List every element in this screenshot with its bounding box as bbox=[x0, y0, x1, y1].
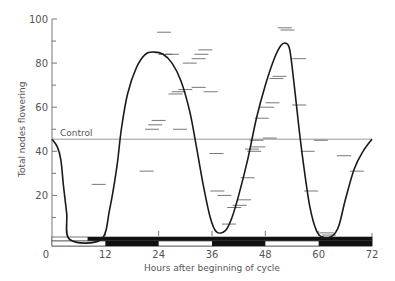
axes bbox=[52, 19, 372, 246]
y-tick-label: 60 bbox=[35, 102, 48, 113]
control-group: Control bbox=[52, 128, 372, 139]
x-tick-label: 0 bbox=[43, 249, 49, 260]
chart: Control 0122436486072 20406080100 Hours … bbox=[0, 0, 395, 281]
y-tick-label: 100 bbox=[29, 14, 48, 25]
y-tick-label: 40 bbox=[35, 146, 48, 157]
x-tick-label: 48 bbox=[259, 249, 272, 260]
fitted-curve bbox=[52, 43, 372, 243]
y-tick-labels: 20406080100 bbox=[29, 14, 48, 201]
y-tick-label: 20 bbox=[35, 190, 48, 201]
observation-markers bbox=[92, 28, 364, 235]
y-axis-label: Total nodes flowering bbox=[17, 81, 27, 178]
lower-bar-dark-segment bbox=[212, 241, 265, 246]
x-tick-label: 72 bbox=[366, 249, 379, 260]
control-label: Control bbox=[60, 128, 93, 138]
lower-bar-dark-segment bbox=[319, 241, 372, 246]
y-tick-label: 80 bbox=[35, 58, 48, 69]
x-tick-labels: 0122436486072 bbox=[43, 249, 379, 260]
x-axis-label: Hours after beginning of cycle bbox=[144, 263, 280, 273]
x-tick-label: 60 bbox=[312, 249, 325, 260]
lower-bar-dark-segment bbox=[105, 241, 158, 246]
x-tick-label: 12 bbox=[99, 249, 112, 260]
x-tick-label: 36 bbox=[206, 249, 219, 260]
x-tick-label: 24 bbox=[152, 249, 165, 260]
